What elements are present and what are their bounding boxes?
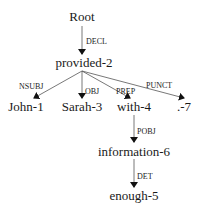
node-information: information-6 — [98, 145, 170, 159]
edge-label-punct: PUNCT — [146, 81, 172, 90]
edge-label-prep: PREP — [116, 87, 135, 96]
edge-label-det: DET — [137, 172, 153, 181]
node-enough: enough-5 — [109, 189, 158, 203]
node-sarah: Sarah-3 — [62, 100, 102, 114]
edge-label-pobj: POBJ — [137, 127, 156, 136]
node-root: Root — [69, 10, 94, 24]
node-with: with-4 — [117, 100, 151, 114]
edge-label-nsubj: NSUBJ — [19, 82, 43, 91]
node-provided: provided-2 — [55, 56, 112, 70]
node-john: John-1 — [8, 100, 43, 114]
node-punct: .-7 — [177, 100, 191, 114]
edge-label-decl: DECL — [86, 37, 107, 46]
edge-label-obj: OBJ — [85, 87, 99, 96]
dependency-tree-diagram: Root provided-2 John-1 Sarah-3 with-4 .-… — [0, 0, 202, 216]
